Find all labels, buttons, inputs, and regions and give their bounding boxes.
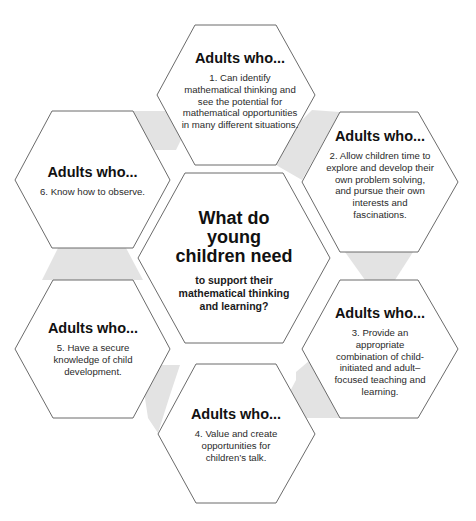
hexagon-1-heading: Adults who... <box>180 50 300 67</box>
center-question-subtitle: to support their mathematical thinking a… <box>172 274 296 313</box>
hexagon-6-heading: Adults who... <box>30 164 155 181</box>
hexagon-2-text: 2. Allow children time to explore and de… <box>326 150 434 221</box>
hexagon-3-heading: Adults who... <box>330 305 430 322</box>
hexagon-5-heading: Adults who... <box>44 320 142 337</box>
hexagon-center-content: What do young children need to support t… <box>172 209 296 313</box>
connector-5-6 <box>42 248 143 280</box>
hexagon-4-heading: Adults who... <box>184 406 288 423</box>
hexagon-6-text: 6. Know how to observe. <box>30 186 155 198</box>
hexagon-2-content: Adults who... 2. Allow children time to … <box>326 128 434 221</box>
hexagon-3-text: 3. Provide an appropriate combination of… <box>330 327 430 398</box>
connector-2-3 <box>345 252 413 280</box>
hexagon-2-heading: Adults who... <box>326 128 434 145</box>
hexagon-4-text: 4. Value and create opportunities for ch… <box>184 428 288 463</box>
hexagon-1-content: Adults who... 1. Can identify mathematic… <box>180 50 300 131</box>
hexagon-6-content: Adults who... 6. Know how to observe. <box>30 164 155 198</box>
hexagon-3-content: Adults who... 3. Provide an appropriate … <box>330 305 430 398</box>
hexagon-1-text: 1. Can identify mathematical thinking an… <box>180 72 300 131</box>
hexagon-5-content: Adults who... 5. Have a secure knowledge… <box>44 320 142 377</box>
center-question-title: What do young children need <box>172 209 296 266</box>
hexagon-4-content: Adults who... 4. Value and create opport… <box>184 406 288 463</box>
hexagon-5-text: 5. Have a secure knowledge of child deve… <box>44 342 142 377</box>
